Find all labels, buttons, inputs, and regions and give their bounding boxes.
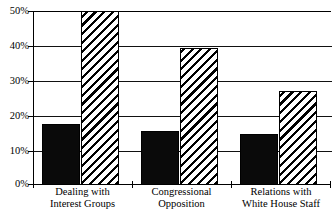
bar-solid-group-3 [240,134,278,185]
category-label-group-3-line-1: Relations with [231,186,331,198]
category-label-group-3: Relations with White House Staff [231,186,331,209]
y-axis-labels: 50% 40% 30% 20% 10% 0% [0,0,31,210]
y-axis-label-0: 0% [15,179,29,190]
bar-chart: 50% 40% 30% 20% 10% 0% Dealing with Inte… [0,0,332,210]
category-label-group-2-line-2: Opposition [132,198,231,210]
category-label-group-1: Dealing with Interest Groups [33,186,132,209]
chart-title-clipped [0,0,332,6]
gridline-40 [34,46,332,47]
category-label-group-2-line-1: Congressional [132,186,231,198]
y-axis-label-30: 30% [10,76,29,87]
bar-hatched-group-3 [279,91,317,185]
bar-solid-group-2 [141,131,179,185]
plot-area [33,11,331,184]
category-label-group-1-line-2: Interest Groups [33,198,132,210]
bar-hatched-group-1 [81,11,119,185]
category-label-group-2: Congressional Opposition [132,186,231,209]
y-axis-label-20: 20% [10,111,29,122]
y-axis-label-50: 50% [10,6,29,17]
bar-solid-group-1 [42,124,80,185]
bar-hatched-group-2 [180,48,218,185]
y-axis-label-40: 40% [10,41,29,52]
y-axis-label-10: 10% [10,146,29,157]
category-label-group-1-line-1: Dealing with [33,186,132,198]
x-axis-line [31,184,331,185]
category-label-group-3-line-2: White House Staff [231,198,331,210]
